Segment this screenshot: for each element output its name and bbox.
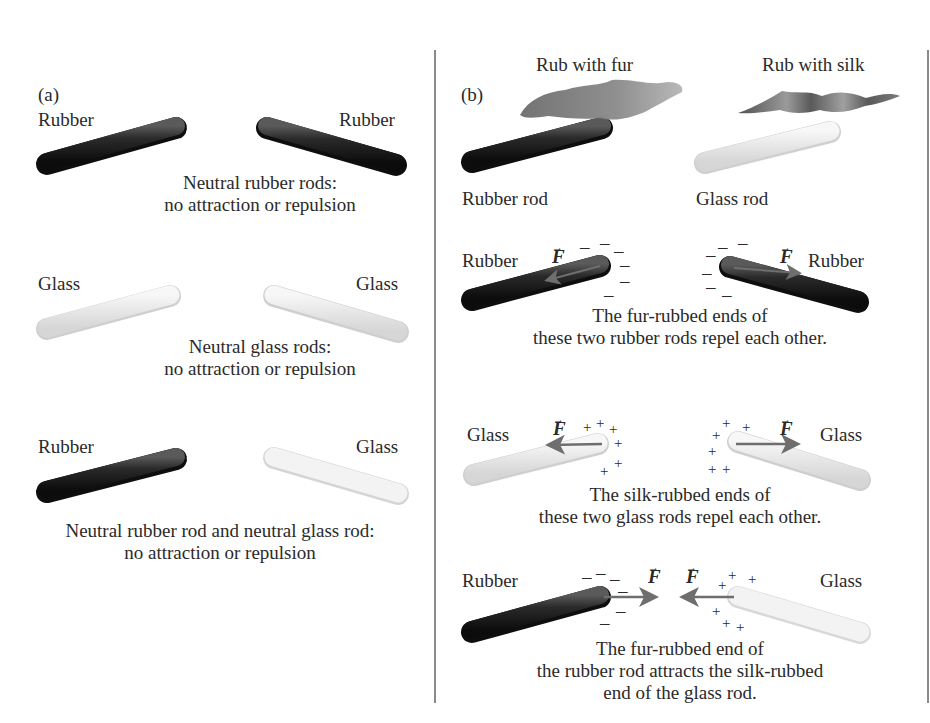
caption-line: the rubber rod attracts the silk-rubbed [470, 660, 890, 682]
negative-charge: – [600, 232, 610, 254]
rod-label: Rubber [38, 109, 94, 131]
rod-label: Rubber [462, 250, 518, 272]
glass-rod-icon [274, 457, 398, 494]
caption-line: The fur-rubbed ends of [500, 305, 860, 327]
positive-charge: + [748, 568, 756, 590]
negative-charge: – [706, 276, 716, 298]
caption-line: end of the glass rod. [500, 682, 860, 704]
vector-arrow-icon: → [780, 236, 791, 258]
rod-label: Glass [820, 570, 862, 592]
rubber-rod-icon [47, 457, 176, 492]
vector-arrow-icon: → [648, 556, 659, 578]
positive-charge: + [736, 616, 744, 638]
negative-charge: – [618, 580, 628, 602]
positive-charge: + [708, 458, 716, 480]
rub-with-fur-label: Rub with fur [536, 54, 633, 76]
positive-charge: + [722, 612, 730, 634]
rub-with-silk-label: Rub with silk [762, 54, 864, 76]
negative-charge: – [596, 562, 606, 584]
fur-icon [520, 80, 682, 120]
caption-line: no attraction or repulsion [100, 358, 420, 380]
rubber-rod-icon [472, 126, 602, 162]
rod-label: Glass [356, 273, 398, 295]
negative-charge: – [738, 232, 748, 254]
negative-charge: – [718, 236, 728, 258]
panel-a-label: (a) [38, 84, 59, 106]
glass-rod-icon [738, 596, 860, 633]
negative-charge: – [580, 236, 590, 258]
negative-charge: – [600, 612, 610, 634]
silk-icon [738, 91, 900, 113]
vector-arrow-icon: → [553, 408, 564, 430]
force-arrow-left [550, 444, 602, 445]
caption-line: these two rubber rods repel each other. [480, 327, 880, 349]
rubber-rod-icon [267, 126, 396, 165]
rod-label: Glass [356, 436, 398, 458]
vector-arrow-icon: → [686, 556, 697, 578]
rubber-rod-icon [47, 126, 176, 164]
caption-line: no attraction or repulsion [20, 542, 420, 564]
negative-charge: – [604, 284, 614, 306]
positive-charge: + [718, 574, 726, 596]
positive-charge: + [742, 416, 750, 438]
caption-line: these two glass rods repel each other. [480, 506, 880, 528]
positive-charge: + [728, 564, 736, 586]
caption-line: Neutral rubber rods: [130, 172, 390, 194]
positive-charge: + [614, 432, 622, 454]
caption-line: Neutral glass rods: [130, 336, 390, 358]
positive-charge: + [722, 458, 730, 480]
rod-label: Rubber [808, 250, 864, 272]
caption-line: no attraction or repulsion [100, 194, 420, 216]
negative-charge: – [582, 566, 592, 588]
negative-charge: – [616, 600, 626, 622]
glass-rod-icon [47, 295, 170, 329]
positive-charge: + [712, 600, 720, 622]
rod-label: Glass [38, 273, 80, 295]
glass-rod-icon [274, 295, 398, 332]
negative-charge: – [620, 270, 630, 292]
positive-charge: + [722, 412, 730, 434]
glass-rod-icon [474, 443, 598, 475]
rod-label: Glass [820, 424, 862, 446]
rod-label: Rubber [462, 570, 518, 592]
rubber-rod-label: Rubber rod [462, 188, 548, 210]
rod-label: Glass [467, 424, 509, 446]
positive-charge: + [596, 412, 604, 434]
negative-charge: – [722, 284, 732, 306]
vector-arrow-icon: → [780, 408, 791, 430]
caption-line: The fur-rubbed end of [500, 638, 860, 660]
vector-arrow-icon: → [552, 236, 563, 258]
glass-rod-icon [738, 441, 860, 480]
caption-line: Neutral rubber rod and neutral glass rod… [20, 520, 420, 542]
positive-charge: + [600, 460, 608, 482]
caption-line: The silk-rubbed ends of [500, 484, 860, 506]
positive-charge: + [583, 416, 591, 438]
rubber-rod-icon [472, 595, 600, 632]
panel-b-label: (b) [461, 84, 483, 106]
glass-rod-label: Glass rod [696, 188, 768, 210]
glass-rod-icon [705, 131, 830, 163]
rod-label: Rubber [339, 109, 395, 131]
positive-charge: + [614, 452, 622, 474]
rod-label: Rubber [38, 436, 94, 458]
